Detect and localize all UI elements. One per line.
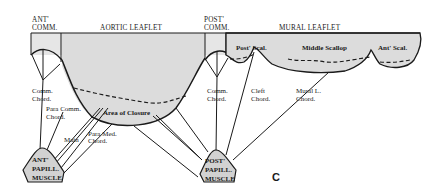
posterior-scallop-label: Post' Scal. [236,44,267,52]
post-comm-label-2: COMM. [204,24,230,32]
aortic-leaflet-label: AORTIC LEAFLET [100,24,162,32]
ant-comm-label-1: ANT' [32,16,49,24]
cleft-chord-2: Chord. [251,95,271,103]
para-comm-chord-2: Chord. [46,113,66,121]
ant-papill-muscle-3: MUSCLE [32,174,62,182]
ant-papill-muscle-2: PAPILL. [32,165,59,173]
post-papill-muscle-1: POST' [205,157,225,165]
post-papill-muscle-2: PAPILL. [205,166,232,174]
panel-label: C [272,171,280,183]
header-labels: ANT' COMM. AORTIC LEAFLET POST' COMM. MU… [32,16,341,32]
cleft-chord-1: Cleft [251,87,265,95]
mural-l-chord-2: Chord. [296,95,316,103]
para-med-chord-2: Chord. [88,137,108,145]
mural-leaflet-label: MURAL LEAFLET [279,24,341,32]
scallop-labels: Post' Scal. Middle Scallop Ant' Scal. [236,44,407,52]
post-comm-label-1: POST' [204,16,224,24]
comm-chord-left-2: Chord. [32,95,52,103]
mitral-valve-diagram: ANT' COMM. AORTIC LEAFLET POST' COMM. MU… [0,0,434,192]
mural-l-chord-1: Mural L. [296,87,321,95]
anterior-commissure [31,33,62,80]
anterior-scallop-label: Ant' Scal. [378,44,407,52]
post-papill-muscle-3: MUSCLE [205,175,235,183]
ant-comm-label-2: COMM. [32,24,58,32]
main-chord-label: Main [64,136,79,144]
comm-chord-left-1: Comm. [32,87,53,95]
middle-scallop-label: Middle Scallop [302,44,347,52]
ant-papill-muscle-1: ANT' [32,156,49,164]
comm-chord-right-2: Chord. [207,95,227,103]
area-of-closure-label: Area of Closure [103,109,150,117]
comm-chord-right-1: Comm. [207,87,228,95]
para-comm-chord-1: Para Comm. [46,105,81,113]
